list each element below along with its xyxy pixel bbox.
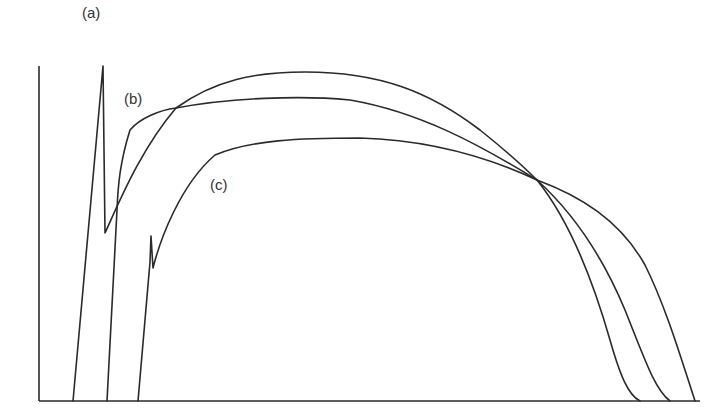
label-c: (c) <box>210 176 228 193</box>
curve-a <box>73 66 640 401</box>
label-a: (a) <box>82 4 100 21</box>
label-b: (b) <box>124 90 142 107</box>
chart-area: (a) (b) (c) <box>0 0 726 418</box>
curve-b <box>107 98 670 401</box>
